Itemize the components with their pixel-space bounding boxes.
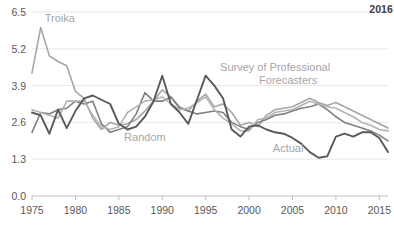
x-tick-labels: 197519801985199019952000200520102015	[20, 204, 391, 216]
x-tick-label: 1975	[20, 204, 44, 216]
series-annotation-actual: Actual	[273, 142, 304, 154]
y-tick-label: 5.2	[11, 43, 26, 55]
y-tick-label: 0.0	[11, 190, 26, 202]
x-tick-label: 2005	[281, 204, 305, 216]
x-tick-label: 2010	[324, 204, 348, 216]
inflation-forecast-chart: 6.55.23.92.61.30.0 197519801985199019952…	[0, 0, 394, 230]
series-annotation-troika: Troika	[45, 12, 76, 24]
x-tick-label: 1995	[194, 204, 218, 216]
y-tick-label: 2.6	[11, 116, 26, 128]
corner-year-label: 2016	[369, 3, 393, 15]
x-tick-label: 1980	[64, 204, 88, 216]
y-tick-label: 6.5	[11, 6, 26, 18]
x-tick-label: 2000	[237, 204, 261, 216]
y-tick-label: 3.9	[11, 80, 26, 92]
series-annotation-random: Random	[124, 131, 166, 143]
x-tick-label: 1990	[151, 204, 175, 216]
x-tick-label: 1985	[107, 204, 131, 216]
y-tick-label: 1.3	[11, 153, 26, 165]
x-tick-label: 2015	[368, 204, 392, 216]
series-annotation-survey-of-professional: Survey of Professional	[220, 61, 330, 73]
series-annotation-forecasters: Forecasters	[259, 74, 318, 86]
chart-canvas: 6.55.23.92.61.30.0 197519801985199019952…	[0, 0, 394, 230]
